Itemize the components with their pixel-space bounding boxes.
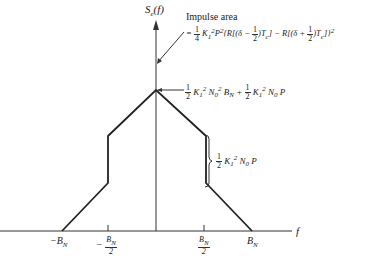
impulse-arrow-icon bbox=[153, 20, 159, 30]
tick-neg-bn-half: − BN2 bbox=[96, 236, 117, 256]
impulse-title: Impulse area bbox=[186, 12, 237, 22]
step-label: 12 K12 N0 P bbox=[216, 153, 257, 170]
peak-label: 12 K12 N02 BN + 12 K12 N0 P bbox=[185, 84, 285, 101]
tick-neg-bn: −BN bbox=[50, 236, 68, 249]
x-axis-label: f bbox=[296, 226, 299, 237]
tick-bn: BN bbox=[247, 236, 258, 249]
y-axis-label: Se(f) bbox=[145, 4, 164, 18]
impulse-formula: = 14 K12P2{R[(δ − 12)Tc] − R[(δ + 12)Tc]… bbox=[186, 26, 334, 43]
tick-bn-half: BN2 bbox=[198, 236, 210, 256]
